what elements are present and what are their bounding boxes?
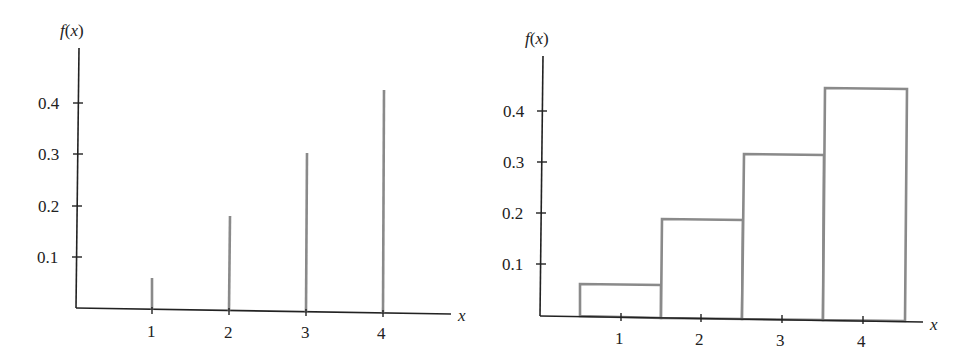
left-ytick-label: 0.3 [38,145,59,164]
right-y-axis-label: f(x) [525,29,549,48]
right-xtick-label: 1 [615,329,624,348]
right-xtick-label: 4 [857,332,866,351]
stem-x2 [229,216,230,311]
stem-x3 [306,153,307,312]
right-x-axis-label: x [929,315,938,334]
charts-canvas: f(x) x 0.4 0.3 0.2 0.1 1 2 3 [0,0,978,356]
right-ytick-label: 0.1 [502,255,523,274]
bar-x4 [823,88,907,321]
left-ytick-label: 0.4 [38,94,60,113]
stem-x4 [383,90,384,313]
left-stems [152,90,384,313]
right-bars [580,88,907,321]
right-y-axis [540,56,543,316]
right-ytick-label: 0.2 [502,204,523,223]
left-xtick-label: 1 [147,322,156,341]
stem-chart: f(x) x 0.4 0.3 0.2 0.1 1 2 3 [37,21,466,343]
left-y-axis [76,48,79,308]
right-xtick-label: 2 [695,330,704,349]
right-ytick-label: 0.3 [503,153,524,172]
left-ytick-label: 0.1 [37,248,58,267]
bar-x2 [661,219,743,319]
left-x-axis-label: x [457,306,466,325]
left-y-axis-label: f(x) [60,21,84,40]
left-xtick-label: 4 [377,324,386,343]
bar-x1 [580,284,661,318]
left-ytick-label: 0.2 [38,197,59,216]
histogram-chart: f(x) x 0.4 0.3 0.2 0.1 1 2 3 [502,29,938,351]
left-xtick-label: 2 [224,323,233,342]
bar-x3 [742,154,824,320]
left-xtick-label: 3 [301,323,310,342]
right-xtick-label: 3 [776,331,785,350]
right-ytick-label: 0.4 [503,102,525,121]
left-x-axis [76,308,451,314]
